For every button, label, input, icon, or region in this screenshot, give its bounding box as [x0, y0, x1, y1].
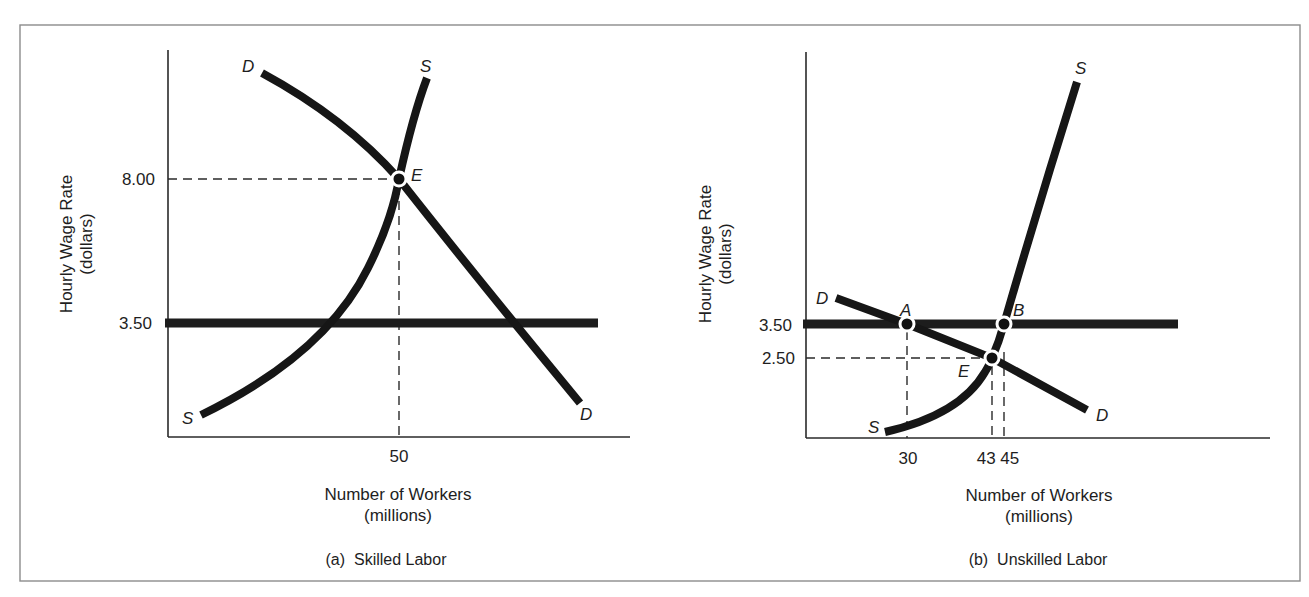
panel-a-y-tick-3-50: 3.50 — [119, 314, 152, 333]
panel-a-caption: (a) Skilled Labor — [326, 551, 448, 568]
panel-a-y-title-line1: Hourly Wage Rate — [57, 175, 76, 313]
panel-b-point-b — [997, 317, 1011, 331]
panel-b-y-title: Hourly Wage Rate (dollars) — [696, 185, 735, 323]
panel-a-demand-curve — [262, 73, 580, 403]
panel-b-caption: (b) Unskilled Labor — [969, 551, 1108, 568]
panel-b-label-d-top: D — [816, 289, 828, 308]
panel-b-label-a: A — [899, 301, 911, 320]
panel-a-y-title-line2: (dollars) — [77, 213, 96, 274]
panel-b-y-tick-2-50: 2.50 — [762, 349, 795, 368]
panel-a-label-s-bottom: S — [182, 409, 194, 428]
panel-b-y-title-line1: Hourly Wage Rate — [696, 185, 715, 323]
panel-b-label-s-bottom: S — [868, 418, 880, 437]
panel-a-label-d-bottom: D — [580, 405, 592, 424]
panel-b-point-e — [985, 351, 999, 365]
panel-a-equilibrium-point — [392, 172, 406, 186]
panel-a-label-s-top: S — [420, 57, 432, 76]
panel-b-unskilled-labor: D A B E S S D 3.50 2.50 30 43 45 Hourly … — [696, 52, 1270, 568]
panel-a-x-title-line1: Number of Workers — [324, 485, 471, 504]
panel-b-demand-curve — [836, 298, 1087, 410]
figure: D S E S D 8.00 3.50 50 Hourly Wage Rate … — [0, 0, 1309, 597]
panel-a-x-title-line2: (millions) — [364, 506, 432, 525]
panel-a-label-e: E — [411, 166, 423, 185]
panel-b-label-b: B — [1013, 301, 1024, 320]
panel-a-label-d-top: D — [242, 57, 254, 76]
panel-b-label-e: E — [958, 362, 970, 381]
panel-a-supply-curve — [201, 78, 427, 415]
panel-b-supply-curve — [885, 82, 1077, 432]
panel-b-label-s-top: S — [1075, 59, 1087, 78]
panel-b-label-d-bottom: D — [1096, 406, 1108, 425]
panel-a-x-tick-50: 50 — [390, 447, 409, 466]
panel-a-y-tick-8-00: 8.00 — [122, 170, 155, 189]
panel-b-x-tick-43-45: 43 45 — [977, 449, 1020, 468]
panel-b-x-title-line2: (millions) — [1005, 507, 1073, 526]
panel-b-x-title-line1: Number of Workers — [965, 486, 1112, 505]
panel-b-x-tick-30: 30 — [899, 449, 918, 468]
panel-a-y-title: Hourly Wage Rate (dollars) — [57, 175, 96, 313]
panel-b-y-title-line2: (dollars) — [716, 223, 735, 284]
panel-b-y-tick-3-50: 3.50 — [759, 316, 792, 335]
panel-a-skilled-labor: D S E S D 8.00 3.50 50 Hourly Wage Rate … — [57, 50, 630, 568]
